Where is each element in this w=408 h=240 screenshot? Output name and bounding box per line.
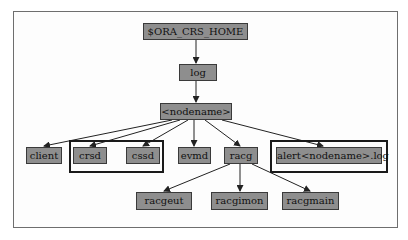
node-ora-crs-home: $ORA_CRS_HOME [143, 23, 248, 40]
node-racgimon: racgimon [211, 192, 268, 210]
node-log: log [179, 64, 217, 81]
node-alert-log: alert<nodename>.log [276, 147, 382, 164]
node-cssd: cssd [126, 147, 160, 164]
node-racgmain: racgmain [282, 192, 339, 210]
edge-nodename-racg [205, 120, 240, 146]
edge-racg-racgeut [164, 164, 230, 191]
node-client: client [26, 147, 62, 164]
node-racg: racg [224, 147, 258, 164]
node-evmd: evmd [178, 147, 211, 164]
node-nodename: <nodename> [160, 103, 232, 120]
node-crsd: crsd [73, 147, 107, 164]
node-racgeut: racgeut [136, 192, 192, 210]
